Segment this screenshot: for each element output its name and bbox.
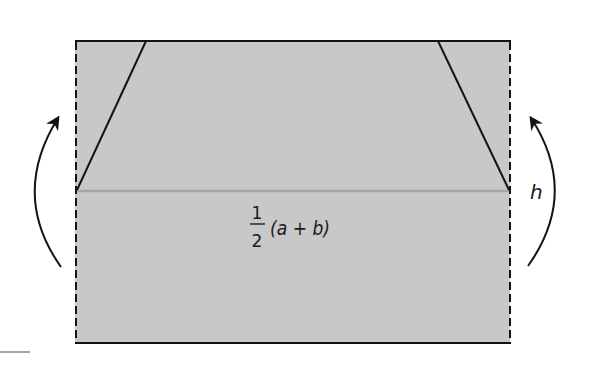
left-rotation-arrow-icon [35,118,61,267]
height-label: h [530,180,543,204]
width-label-numerator: 1 [252,203,263,223]
width-label-expression: (a + b) [270,217,330,239]
width-label-denominator: 2 [252,231,263,251]
